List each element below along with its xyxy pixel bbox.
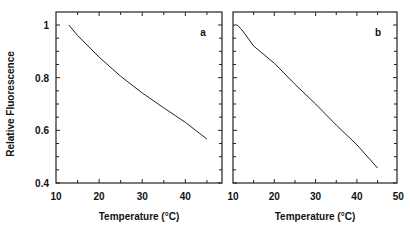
x-tick-label: 10	[50, 191, 62, 202]
data-line-b	[237, 25, 378, 168]
x-tick-label: 50	[393, 191, 405, 202]
y-tick-label: 1	[43, 20, 49, 31]
y-axis-label: Relative Fluorescence	[5, 51, 16, 157]
x-axis-label-a: Temperature (°C)	[99, 211, 180, 222]
panel-a: 0.40.60.8110203040a	[35, 12, 222, 202]
panel-label: a	[200, 27, 206, 38]
y-tick-label: 0.8	[35, 73, 49, 84]
x-tick-label: 20	[269, 191, 281, 202]
y-tick-label: 0.6	[35, 125, 49, 136]
panel-label: b	[375, 27, 381, 38]
x-tick-label: 30	[137, 191, 149, 202]
plot-frame	[233, 12, 397, 183]
panel-b: 1020304050b	[227, 12, 404, 202]
y-tick-label: 0.4	[35, 178, 49, 189]
x-tick-label: 40	[351, 191, 363, 202]
plot-frame	[56, 12, 222, 183]
x-tick-label: 30	[310, 191, 322, 202]
x-tick-label: 10	[227, 191, 239, 202]
data-line-a	[69, 25, 207, 139]
figure: 0.40.60.8110203040a 1020304050b Relative…	[0, 0, 410, 233]
x-axis-label-b: Temperature (°C)	[275, 211, 356, 222]
x-tick-label: 20	[94, 191, 106, 202]
x-tick-label: 40	[180, 191, 192, 202]
